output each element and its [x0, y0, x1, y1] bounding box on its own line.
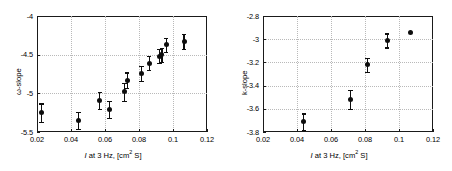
- x-axis-tick: [297, 129, 298, 132]
- gridline-vertical: [71, 16, 72, 132]
- error-bar-cap: [107, 101, 112, 102]
- data-point-marker: [385, 38, 390, 43]
- y-axis-tick-label: -5.5: [0, 128, 33, 137]
- error-bar-cap: [125, 72, 130, 73]
- error-bar-cap: [348, 109, 353, 110]
- y-axis-tick-label: -5: [0, 89, 33, 98]
- error-bar-cap: [164, 38, 169, 39]
- data-point-marker: [39, 110, 44, 115]
- error-bar-cap: [182, 34, 187, 35]
- error-bar-cap: [302, 113, 307, 114]
- y-axis-tick: [263, 62, 266, 63]
- x-axis-title-mid: at 3 Hz, [cm: [313, 151, 356, 160]
- x-axis-tick: [139, 129, 140, 132]
- figure-container: ω-slope I at 3 Hz, [cm2 S] 0.020.040.060…: [0, 0, 452, 171]
- error-bar-cap: [107, 118, 112, 119]
- x-axis-title-left: I at 3 Hz, [cm2 S]: [0, 149, 226, 160]
- x-axis-title-mid: at 3 Hz, [cm: [87, 151, 130, 160]
- error-bar-cap: [147, 56, 152, 57]
- y-axis-tick-label: -3.8: [225, 128, 259, 137]
- error-bar-cap: [160, 62, 165, 63]
- y-axis-tick: [37, 93, 40, 94]
- omega-slope-panel: ω-slope I at 3 Hz, [cm2 S] 0.020.040.060…: [0, 0, 226, 171]
- error-bar-cap: [125, 88, 130, 89]
- error-bar-cap: [122, 101, 127, 102]
- gridline-vertical: [173, 16, 174, 132]
- gridline-horizontal: [263, 39, 433, 40]
- error-bar-cap: [302, 130, 307, 131]
- y-axis-tick-label: -4: [0, 12, 33, 21]
- error-bar-cap: [39, 122, 44, 123]
- gridline-horizontal: [263, 86, 433, 87]
- y-axis-tick-label: -3.4: [225, 81, 259, 90]
- x-axis-tick: [173, 129, 174, 132]
- error-bar-cap: [139, 81, 144, 82]
- error-bar-cap: [157, 63, 162, 64]
- x-axis-tick: [71, 129, 72, 132]
- gridline-horizontal: [263, 62, 433, 63]
- error-bar-cap: [365, 72, 370, 73]
- data-point-marker: [125, 78, 130, 83]
- y-axis-tick-label: -3.6: [225, 104, 259, 113]
- error-bar-cap: [365, 58, 370, 59]
- gridline-vertical: [365, 16, 366, 132]
- y-axis-tick: [37, 16, 40, 17]
- error-bar-cap: [182, 49, 187, 50]
- gridline-vertical: [399, 16, 400, 132]
- y-axis-tick-label: -2.8: [225, 12, 259, 21]
- error-bar-cap: [385, 47, 390, 48]
- error-bar-cap: [76, 129, 81, 130]
- x-axis-tick: [331, 129, 332, 132]
- gridline-vertical: [105, 16, 106, 132]
- x-axis-title-suffix: S]: [132, 151, 141, 160]
- gridline-vertical: [297, 16, 298, 132]
- y-axis-tick-label: -3: [225, 35, 259, 44]
- y-axis-tick: [263, 132, 266, 133]
- y-axis-tick: [263, 16, 266, 17]
- y-axis-tick-label: -4.5: [0, 50, 33, 59]
- y-axis-tick: [37, 132, 40, 133]
- error-bar-cap: [147, 70, 152, 71]
- data-point-marker: [139, 71, 144, 76]
- x-axis-title-suffix: S]: [358, 151, 367, 160]
- data-point-marker: [182, 39, 187, 44]
- error-bar-cap: [98, 92, 103, 93]
- error-bar-cap: [348, 90, 353, 91]
- x-axis-tick: [207, 129, 208, 132]
- x-axis-tick-label: 0.12: [187, 135, 227, 144]
- data-point-marker: [107, 107, 112, 112]
- x-axis-tick: [433, 129, 434, 132]
- k-slope-panel: k-slope I at 3 Hz, [cm2 S] 0.020.040.060…: [226, 0, 452, 171]
- error-bar-cap: [385, 33, 390, 34]
- error-bar-cap: [164, 52, 169, 53]
- x-axis-tick: [365, 129, 366, 132]
- y-axis-tick-label: -3.2: [225, 58, 259, 67]
- y-axis-tick: [263, 39, 266, 40]
- error-bar-cap: [160, 48, 165, 49]
- error-bar-cap: [39, 103, 44, 104]
- y-axis-tick: [263, 86, 266, 87]
- x-axis-tick-label: 0.12: [413, 135, 452, 144]
- error-bar-cap: [139, 66, 144, 67]
- gridline-horizontal: [37, 55, 207, 56]
- data-point-marker: [164, 42, 169, 47]
- y-axis-tick: [37, 55, 40, 56]
- gridline-vertical: [331, 16, 332, 132]
- x-axis-title-right: I at 3 Hz, [cm2 S]: [226, 149, 452, 160]
- error-bar-cap: [98, 109, 103, 110]
- data-point-marker: [147, 61, 152, 66]
- error-bar-cap: [76, 112, 81, 113]
- x-axis-tick: [399, 129, 400, 132]
- y-axis-tick: [263, 109, 266, 110]
- x-axis-tick: [105, 129, 106, 132]
